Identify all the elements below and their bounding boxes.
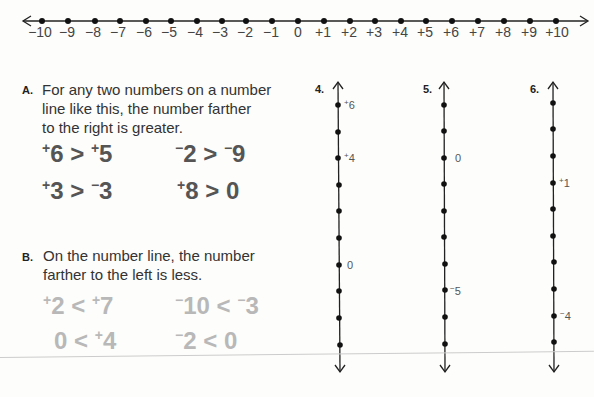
vertical-tick-label: +1 xyxy=(559,176,570,189)
vertical-tick-label: 0 xyxy=(455,151,461,164)
exercise-number-6: 6. xyxy=(530,83,539,95)
vertical-number-lines xyxy=(0,0,594,397)
vertical-tick-label: +4 xyxy=(344,151,355,164)
exercise-number-5: 5. xyxy=(423,83,432,95)
exercise-number-4: 4. xyxy=(315,83,324,95)
vertical-tick-label: −5 xyxy=(450,284,461,297)
vertical-tick-label: 0 xyxy=(347,258,353,271)
vertical-tick-label: +6 xyxy=(344,98,355,111)
vertical-tick-label: −4 xyxy=(560,309,571,322)
